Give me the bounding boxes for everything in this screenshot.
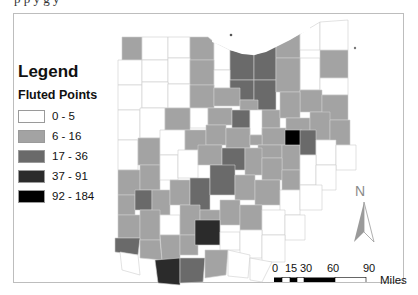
county-polygon	[118, 140, 138, 170]
county-polygon	[142, 82, 168, 108]
county-polygon	[232, 110, 250, 128]
county-polygon	[208, 108, 232, 125]
county-polygon	[220, 200, 240, 225]
county-polygon	[210, 165, 235, 195]
county-polygon	[300, 58, 320, 90]
legend-item: 0 - 5	[18, 106, 97, 126]
legend-label: 17 - 36	[52, 150, 88, 162]
county-polygon	[262, 210, 285, 235]
county-polygon	[282, 145, 300, 170]
county-polygon	[190, 85, 214, 108]
county-polygon	[320, 20, 348, 50]
county-polygon	[262, 128, 286, 145]
county-polygon	[118, 110, 140, 140]
legend-item: 17 - 36	[18, 146, 97, 166]
county-polygon	[235, 175, 255, 200]
county-polygon	[160, 155, 178, 180]
county-polygon	[138, 138, 160, 165]
county-polygon	[240, 205, 262, 230]
county-polygon	[170, 180, 190, 205]
island-marker-east	[354, 47, 356, 49]
county-polygon	[140, 240, 162, 260]
legend: Legend Fluted Points 0 - 5 6 - 16 17 - 3…	[18, 62, 97, 206]
legend-swatch	[18, 130, 45, 143]
county-polygon	[205, 250, 228, 278]
county-polygon	[300, 185, 322, 210]
county-polygon	[118, 215, 140, 238]
county-polygon	[140, 165, 160, 190]
scale-tick: 0	[272, 262, 278, 274]
county-polygon	[262, 158, 282, 180]
county-polygon	[140, 210, 160, 240]
county-polygon	[118, 85, 142, 110]
county-polygon	[300, 130, 316, 155]
scale-tick: 30	[300, 262, 312, 274]
county-polygon	[300, 155, 316, 185]
county-polygon	[135, 190, 152, 210]
legend-label: 6 - 16	[52, 130, 81, 142]
county-polygon	[118, 60, 142, 85]
county-polygon	[250, 110, 262, 135]
county-polygon	[120, 252, 140, 275]
county-polygon	[250, 135, 262, 145]
legend-item: 92 - 184	[18, 186, 97, 206]
county-polygon	[228, 250, 250, 278]
county-polygon	[320, 78, 348, 95]
scale-tick: 60	[327, 262, 339, 274]
scale-bar-graphic	[272, 277, 380, 282]
county-polygon	[142, 60, 168, 82]
county-polygon	[115, 238, 140, 255]
county-polygon	[190, 108, 208, 128]
county-polygon	[190, 60, 214, 85]
scale-tick: 15	[285, 262, 297, 274]
county-polygon	[118, 195, 135, 215]
legend-swatch	[18, 150, 45, 163]
scale-units: Miles	[380, 274, 407, 286]
county-polygon	[190, 37, 214, 60]
county-polygon	[160, 215, 180, 235]
county-polygon	[316, 140, 336, 165]
county-polygon	[122, 37, 142, 60]
county-polygon	[165, 108, 190, 130]
legend-subtitle: Fluted Points	[18, 88, 97, 102]
legend-title: Legend	[18, 62, 97, 82]
county-polygon	[168, 84, 190, 108]
legend-label: 0 - 5	[52, 110, 75, 122]
county-polygon	[220, 232, 240, 250]
county-polygon	[226, 128, 250, 148]
county-polygon	[214, 88, 240, 106]
legend-swatch	[18, 190, 45, 203]
county-polygon	[285, 130, 302, 145]
county-polygon	[206, 125, 226, 145]
county-polygon	[282, 170, 300, 190]
legend-label: 92 - 184	[52, 190, 94, 202]
county-polygon	[250, 258, 272, 282]
legend-item: 37 - 91	[18, 166, 97, 186]
county-polygon	[142, 37, 168, 60]
county-polygon	[245, 148, 262, 175]
county-polygon	[320, 50, 348, 78]
county-polygon	[155, 258, 180, 285]
county-polygon	[178, 150, 198, 178]
county-polygon	[336, 145, 356, 170]
county-polygon	[262, 235, 285, 262]
county-polygon	[168, 37, 190, 58]
county-polygon	[214, 70, 230, 88]
county-polygon	[255, 180, 280, 205]
island-marker	[230, 34, 233, 37]
legend-item: 6 - 16	[18, 126, 97, 146]
county-polygon	[276, 58, 300, 92]
scale-tick: 90	[363, 262, 375, 274]
county-polygon	[168, 58, 190, 84]
legend-swatch	[18, 170, 45, 183]
legend-swatch	[18, 110, 45, 123]
county-polygon	[198, 145, 222, 165]
county-polygon	[285, 215, 305, 240]
legend-label: 37 - 91	[52, 170, 88, 182]
county-polygon	[300, 90, 322, 112]
north-arrow-icon	[350, 180, 380, 250]
county-polygon	[280, 92, 300, 118]
county-polygon	[180, 258, 205, 283]
county-polygon	[195, 220, 220, 245]
